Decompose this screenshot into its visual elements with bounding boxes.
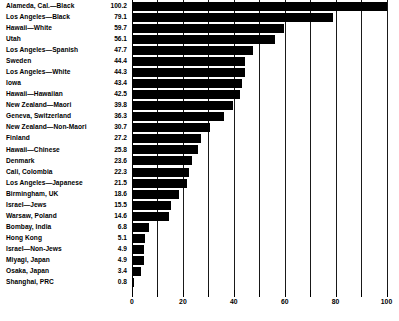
bar bbox=[132, 223, 149, 232]
bar bbox=[132, 79, 242, 88]
plot-area bbox=[132, 0, 387, 290]
value-label: 56.1 bbox=[114, 36, 132, 43]
bar bbox=[132, 256, 144, 265]
value-label: 0.8 bbox=[118, 279, 132, 286]
x-tick-10 bbox=[157, 290, 158, 297]
bar bbox=[132, 68, 245, 77]
value-label: 43.4 bbox=[114, 80, 132, 87]
value-label: 14.6 bbox=[114, 213, 132, 220]
category-label: Hawaii—Chinese bbox=[0, 147, 114, 154]
category-label: Iowa bbox=[0, 80, 114, 87]
category-label: Finland bbox=[0, 135, 114, 142]
value-label: 4.9 bbox=[118, 246, 132, 253]
x-tick-label: 20 bbox=[179, 299, 187, 306]
category-label: Denmark bbox=[0, 158, 114, 165]
bar bbox=[132, 46, 253, 55]
category-label: New Zealand—Maori bbox=[0, 102, 114, 109]
value-label: 39.8 bbox=[114, 102, 132, 109]
value-label: 4.9 bbox=[118, 257, 132, 264]
category-label-column: Alameda, Cal.—Black100.2Los Angeles—Blac… bbox=[0, 0, 132, 290]
value-label: 5.1 bbox=[118, 235, 132, 242]
bar bbox=[132, 90, 240, 99]
category-label: Los Angeles—Black bbox=[0, 14, 114, 21]
bar bbox=[132, 190, 179, 199]
value-label: 25.8 bbox=[114, 147, 132, 154]
value-label: 47.7 bbox=[114, 47, 132, 54]
bar bbox=[132, 145, 198, 154]
bar bbox=[132, 101, 233, 110]
bar bbox=[132, 13, 333, 22]
value-label: 15.5 bbox=[114, 202, 132, 209]
x-tick-70 bbox=[310, 290, 311, 297]
value-label: 6.8 bbox=[118, 224, 132, 231]
category-label: Hong Kong bbox=[0, 235, 118, 242]
value-label: 27.2 bbox=[114, 135, 132, 142]
x-tick-100 bbox=[387, 290, 388, 297]
x-tick-90 bbox=[361, 290, 362, 297]
bar bbox=[132, 278, 134, 287]
bar bbox=[132, 267, 141, 276]
bar bbox=[132, 245, 144, 254]
x-tick-label: 100 bbox=[381, 299, 392, 306]
category-label: Birmingham, UK bbox=[0, 191, 114, 198]
category-label: Israel—Jews bbox=[0, 202, 114, 209]
category-label: Sweden bbox=[0, 58, 114, 65]
value-label: 18.6 bbox=[114, 191, 132, 198]
value-label: 30.7 bbox=[114, 124, 132, 131]
value-label: 23.6 bbox=[114, 158, 132, 165]
x-tick-0 bbox=[132, 290, 133, 297]
bar bbox=[132, 123, 210, 132]
bar bbox=[132, 134, 201, 143]
bar bbox=[132, 168, 189, 177]
horizontal-bar-chart: Alameda, Cal.—Black100.2Los Angeles—Blac… bbox=[0, 0, 399, 321]
x-tick-50 bbox=[259, 290, 260, 297]
x-axis: 020406080100 bbox=[132, 290, 387, 321]
value-label: 42.5 bbox=[114, 91, 132, 98]
category-label: Osaka, Japan bbox=[0, 268, 118, 275]
category-label: Shanghai, PRC bbox=[0, 279, 118, 286]
category-label: Los Angeles—Japanese bbox=[0, 180, 114, 187]
category-label: Los Angeles—Spanish bbox=[0, 47, 114, 54]
category-label: Los Angeles—White bbox=[0, 69, 114, 76]
x-tick-label: 0 bbox=[130, 299, 134, 306]
x-tick-80 bbox=[336, 290, 337, 297]
x-tick-20 bbox=[183, 290, 184, 297]
category-label: Miyagi, Japan bbox=[0, 257, 118, 264]
bar bbox=[132, 212, 169, 221]
category-label: Alameda, Cal.—Black bbox=[0, 3, 110, 10]
value-label: 79.1 bbox=[114, 14, 132, 21]
bars-group bbox=[132, 0, 387, 290]
bar bbox=[132, 201, 171, 210]
category-label: Utah bbox=[0, 36, 114, 43]
x-tick-30 bbox=[208, 290, 209, 297]
chart-row: Shanghai, PRC0.8 bbox=[0, 276, 132, 289]
value-label: 3.4 bbox=[118, 268, 132, 275]
bar bbox=[132, 2, 387, 11]
category-label: New Zealand—Non-Maori bbox=[0, 124, 114, 131]
value-label: 59.7 bbox=[114, 25, 132, 32]
category-label: Hawaii—Hawaiian bbox=[0, 91, 114, 98]
category-label: Israel—Non-Jews bbox=[0, 246, 118, 253]
value-label: 44.4 bbox=[114, 58, 132, 65]
value-label: 21.5 bbox=[114, 180, 132, 187]
category-label: Bombay, India bbox=[0, 224, 118, 231]
x-tick-label: 60 bbox=[281, 299, 289, 306]
value-label: 100.2 bbox=[110, 3, 132, 10]
category-label: Cali, Colombia bbox=[0, 169, 114, 176]
value-label: 36.3 bbox=[114, 113, 132, 120]
x-tick-label: 40 bbox=[230, 299, 238, 306]
bar bbox=[132, 24, 284, 33]
x-tick-40 bbox=[234, 290, 235, 297]
bar bbox=[132, 112, 224, 121]
value-label: 22.3 bbox=[114, 169, 132, 176]
x-tick-60 bbox=[285, 290, 286, 297]
bar bbox=[132, 156, 192, 165]
bar bbox=[132, 57, 245, 66]
bar bbox=[132, 234, 145, 243]
value-label: 44.3 bbox=[114, 69, 132, 76]
category-label: Warsaw, Poland bbox=[0, 213, 114, 220]
x-tick-label: 80 bbox=[332, 299, 340, 306]
category-label: Geneva, Switzerland bbox=[0, 113, 114, 120]
bar bbox=[132, 35, 275, 44]
category-label: Hawaii—White bbox=[0, 25, 114, 32]
